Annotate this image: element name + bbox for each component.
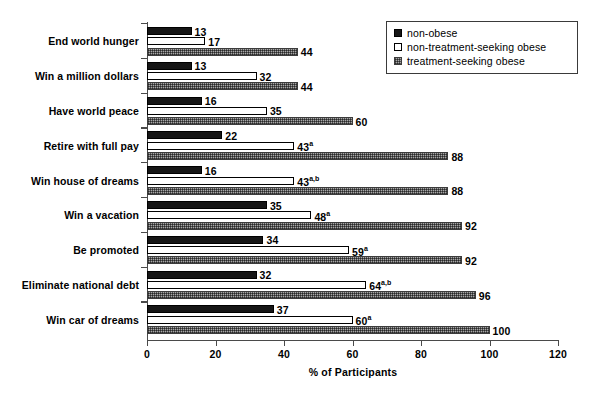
bar-value-label: 88 bbox=[451, 151, 463, 163]
bar-value-label: 32 bbox=[260, 71, 272, 83]
category-label: Win car of dreams bbox=[0, 314, 139, 326]
legend-item[interactable]: non-treatment-seeking obese bbox=[394, 40, 571, 54]
bar-value-label: 43a bbox=[297, 140, 313, 153]
legend-swatch-non-obese-icon bbox=[394, 29, 402, 37]
x-axis-tick bbox=[558, 341, 559, 346]
bar-0-0 bbox=[147, 27, 192, 35]
bar-0-2 bbox=[147, 97, 202, 105]
horizontal-bar-chart: End world hungerWin a million dollarsHav… bbox=[0, 0, 594, 393]
bar-0-3 bbox=[147, 131, 222, 139]
x-axis-tick bbox=[421, 341, 422, 346]
legend-label: non-treatment-seeking obese bbox=[407, 41, 546, 53]
bar-2-7 bbox=[147, 291, 476, 299]
y-axis-tick bbox=[141, 58, 147, 59]
bar-0-5 bbox=[147, 201, 267, 209]
bar-value-label: 16 bbox=[205, 165, 217, 177]
bar-value-label: 88 bbox=[451, 185, 463, 197]
bar-0-6 bbox=[147, 236, 263, 244]
bar-value-label: 34 bbox=[266, 234, 278, 246]
bar-2-4 bbox=[147, 187, 448, 195]
category-label: Win house of dreams bbox=[0, 175, 139, 187]
bar-1-6 bbox=[147, 246, 349, 254]
bar-value-label: 37 bbox=[277, 304, 289, 316]
bar-value-label: 96 bbox=[479, 290, 491, 302]
bar-value-label: 13 bbox=[195, 60, 207, 72]
bar-value-label: 17 bbox=[208, 36, 220, 48]
y-axis-tick bbox=[141, 23, 147, 24]
category-label: Be promoted bbox=[0, 244, 139, 256]
bar-2-1 bbox=[147, 82, 298, 90]
y-axis-tick bbox=[141, 197, 147, 198]
bar-1-3 bbox=[147, 142, 294, 150]
legend-item[interactable]: non-obese bbox=[394, 26, 571, 40]
bar-value-label: 92 bbox=[465, 255, 477, 267]
x-axis-title: % of Participants bbox=[147, 366, 559, 378]
bar-value-label: 44 bbox=[301, 81, 313, 93]
bar-1-0 bbox=[147, 37, 205, 45]
bar-1-2 bbox=[147, 107, 267, 115]
legend-item[interactable]: treatment-seeking obese bbox=[394, 54, 571, 68]
x-axis-tick bbox=[284, 341, 285, 346]
category-label: Have world peace bbox=[0, 105, 139, 117]
bar-value-label: 60a bbox=[356, 314, 372, 327]
bar-value-label: 13 bbox=[195, 26, 207, 38]
x-axis-tick-label: 120 bbox=[538, 348, 578, 360]
x-axis-tick bbox=[216, 341, 217, 346]
x-axis-tick-label: 20 bbox=[196, 348, 236, 360]
bar-value-label: 32 bbox=[260, 269, 272, 281]
x-axis-tick bbox=[490, 341, 491, 346]
bar-0-8 bbox=[147, 305, 274, 313]
bar-value-label: 16 bbox=[205, 95, 217, 107]
y-axis-tick bbox=[141, 267, 147, 268]
bar-1-5 bbox=[147, 211, 311, 219]
chart-legend: non-obese non-treatment-seeking obese tr… bbox=[386, 21, 578, 74]
bar-1-1 bbox=[147, 72, 257, 80]
bar-2-2 bbox=[147, 117, 353, 125]
legend-swatch-treatment-seeking-obese-icon bbox=[394, 57, 402, 65]
bar-2-6 bbox=[147, 256, 462, 264]
bar-value-label: 44 bbox=[301, 46, 313, 58]
bar-value-label: 22 bbox=[225, 130, 237, 142]
bar-value-label: 35 bbox=[270, 105, 282, 117]
category-label: Win a vacation bbox=[0, 209, 139, 221]
legend-label: treatment-seeking obese bbox=[407, 55, 525, 67]
bar-value-label: 60 bbox=[356, 116, 368, 128]
x-axis-tick-label: 60 bbox=[333, 348, 373, 360]
bar-2-0 bbox=[147, 48, 298, 56]
category-label: End world hunger bbox=[0, 35, 139, 47]
bar-0-4 bbox=[147, 166, 202, 174]
bar-value-label: 100 bbox=[493, 325, 511, 337]
bar-2-8 bbox=[147, 326, 490, 334]
bar-value-label: 48a bbox=[314, 210, 330, 223]
y-axis-tick bbox=[141, 162, 147, 163]
bar-value-label: 35 bbox=[270, 200, 282, 212]
legend-swatch-non-treatment-seeking-obese-icon bbox=[394, 43, 402, 51]
bar-1-8 bbox=[147, 316, 353, 324]
bar-value-label: 59a bbox=[352, 245, 368, 258]
x-axis-tick bbox=[147, 341, 148, 346]
bar-value-label: 43a,b bbox=[297, 175, 319, 188]
bar-0-7 bbox=[147, 271, 257, 279]
x-axis-tick-label: 0 bbox=[127, 348, 167, 360]
x-axis-tick-label: 40 bbox=[264, 348, 304, 360]
legend-label: non-obese bbox=[407, 27, 458, 39]
bar-2-3 bbox=[147, 152, 448, 160]
bar-0-1 bbox=[147, 62, 192, 70]
bar-value-label: 64a,b bbox=[369, 279, 391, 292]
bar-2-5 bbox=[147, 222, 462, 230]
bar-1-7 bbox=[147, 281, 366, 289]
category-label: Win a million dollars bbox=[0, 70, 139, 82]
bar-1-4 bbox=[147, 177, 294, 185]
category-label: Retire with full pay bbox=[0, 140, 139, 152]
y-axis-tick bbox=[141, 127, 147, 128]
category-label: Eliminate national debt bbox=[0, 279, 139, 291]
y-axis-tick bbox=[141, 301, 147, 302]
y-axis-tick bbox=[141, 93, 147, 94]
x-axis-tick-label: 100 bbox=[470, 348, 510, 360]
x-axis-tick-label: 80 bbox=[401, 348, 441, 360]
bar-value-label: 92 bbox=[465, 220, 477, 232]
x-axis-tick bbox=[353, 341, 354, 346]
y-axis-tick bbox=[141, 232, 147, 233]
